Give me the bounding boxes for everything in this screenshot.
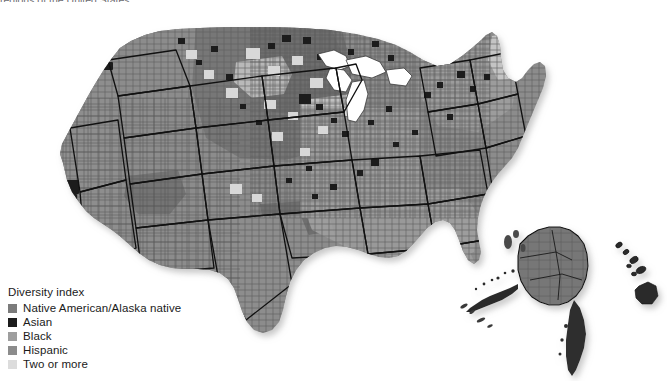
legend-label-asian: Asian xyxy=(23,315,52,329)
alaska-inset[interactable] xyxy=(466,220,600,376)
legend-item-native-american[interactable]: Native American/Alaska native xyxy=(8,301,238,315)
swatch-asian xyxy=(8,318,17,327)
legend-title: Diversity index xyxy=(8,286,238,299)
legend-item-asian[interactable]: Asian xyxy=(8,315,238,329)
map-legend: Diversity index Native American/Alaska n… xyxy=(8,286,238,371)
alaska-panhandle xyxy=(559,300,587,376)
swatch-hispanic xyxy=(8,346,17,355)
legend-item-two-or-more[interactable]: Two or more xyxy=(8,357,238,371)
legend-item-black[interactable]: Black xyxy=(8,329,238,343)
hawaii-islands[interactable] xyxy=(615,241,658,304)
legend-label-native-american: Native American/Alaska native xyxy=(23,301,181,315)
legend-item-hispanic[interactable]: Hispanic xyxy=(8,343,238,357)
hawaii-inset[interactable] xyxy=(615,241,658,304)
swatch-native-american xyxy=(8,304,17,313)
legend-label-two-or-more: Two or more xyxy=(23,357,88,371)
legend-label-hispanic: Hispanic xyxy=(23,343,68,357)
aleutian-islands xyxy=(466,269,518,312)
legend-label-black: Black xyxy=(23,329,52,343)
map-figure: regions of the United States. xyxy=(0,0,667,381)
figure-caption: regions of the United States. xyxy=(0,0,667,2)
swatch-black xyxy=(8,332,17,341)
swatch-two-or-more xyxy=(8,360,17,369)
